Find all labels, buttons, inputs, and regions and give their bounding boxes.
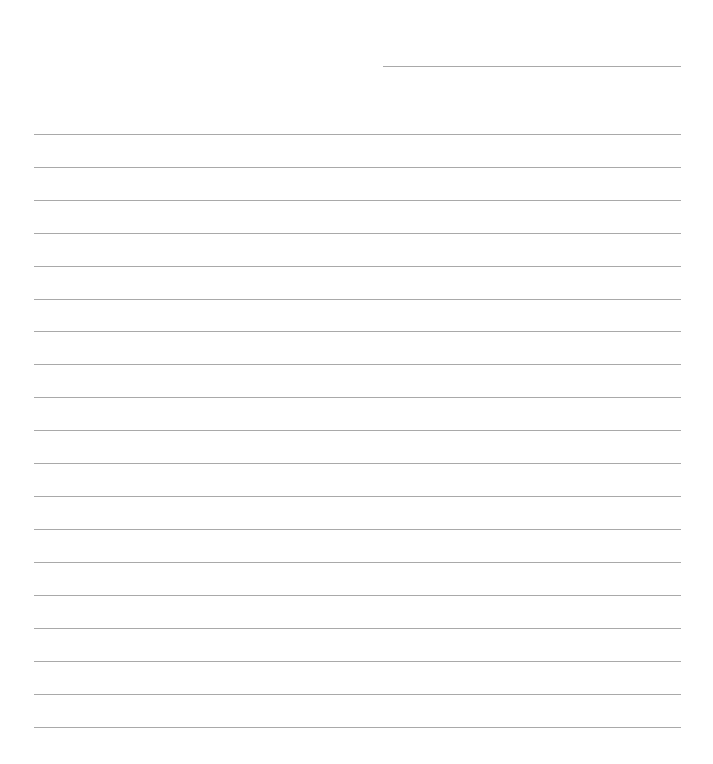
ruled-line: [34, 299, 681, 300]
ruled-line: [34, 727, 681, 728]
ruled-line: [34, 628, 681, 629]
ruled-line: [34, 430, 681, 431]
ruled-line: [34, 364, 681, 365]
ruled-line: [34, 266, 681, 267]
ruled-line: [34, 331, 681, 332]
ruled-line: [34, 200, 681, 201]
ruled-line: [34, 694, 681, 695]
ruled-line: [34, 134, 681, 135]
ruled-line: [34, 167, 681, 168]
ruled-line: [34, 233, 681, 234]
ruled-line: [34, 463, 681, 464]
lined-page: [0, 0, 713, 764]
ruled-line: [34, 529, 681, 530]
ruled-line: [34, 562, 681, 563]
header-line: [383, 66, 681, 67]
ruled-line: [34, 661, 681, 662]
ruled-line: [34, 595, 681, 596]
ruled-line: [34, 496, 681, 497]
ruled-line: [34, 397, 681, 398]
